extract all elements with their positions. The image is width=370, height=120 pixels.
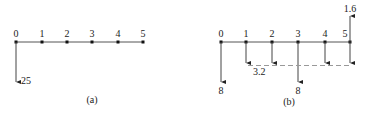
load-value: 8 [219,85,224,96]
panel-a: 0 1 2 3 4 5 25 (a) [14,28,146,106]
node-label: 2 [65,28,70,39]
diagram-canvas: 0 1 2 3 4 5 25 (a) 0 1 2 3 4 5 1.6 8 [0,0,370,120]
panel-caption: (b) [283,96,295,108]
load-value: 25 [21,75,31,86]
node-label: 2 [270,28,275,39]
load-value: 8 [296,85,301,96]
load-value: 1.6 [344,3,357,14]
node-label: 4 [323,28,328,39]
node-label: 3 [90,28,95,39]
panel-b: 0 1 2 3 4 5 1.6 8 8 3.2 (b) [219,3,357,108]
node-dot [117,41,120,44]
node-dot [142,41,145,44]
node-label: 3 [296,28,301,39]
node-dot [41,41,44,44]
node-label: 1 [244,28,249,39]
distributed-value: 3.2 [253,66,266,77]
node-dot [66,41,69,44]
node-dot [91,41,94,44]
node-label: 0 [14,28,19,39]
node-label: 5 [343,28,348,39]
node-label: 4 [116,28,121,39]
panel-caption: (a) [86,94,97,106]
node-label: 0 [219,28,224,39]
node-label: 1 [40,28,45,39]
node-label: 5 [141,28,146,39]
